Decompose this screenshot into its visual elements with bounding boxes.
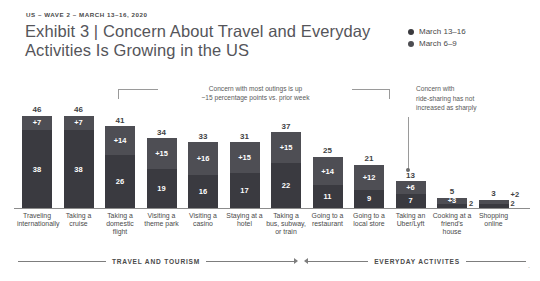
bar-segment-baseline: 11 [313, 185, 343, 208]
bar-chart-plot: 46+73846+73841+142634+151933+161631+1517… [14, 96, 530, 208]
bar-segment-baseline: 26 [105, 155, 135, 208]
category-label: Taking a domestic flight [100, 212, 140, 236]
bar-segment-increase: +7 [22, 116, 52, 130]
stacked-bar[interactable]: +1522 [271, 132, 301, 208]
category-label: Visiting a theme park [142, 212, 182, 228]
category-label: Visiting a casino [183, 212, 223, 228]
bar-segment-increase: +15 [230, 142, 260, 173]
bar-column: 41+1426 [105, 116, 135, 209]
bar-total-label: 21 [365, 154, 374, 163]
bar-total-label: 3 [491, 189, 495, 198]
bar-column: 34+1519 [147, 128, 177, 208]
category-label: Traveling internationally [17, 212, 57, 228]
arrow-right-icon [294, 258, 298, 264]
legend-item-march-6-9: March 6–9 [408, 39, 466, 48]
bar-segment-baseline: 17 [230, 173, 260, 208]
band-label: EVERYDAY ACTIVITES [368, 258, 466, 265]
stacked-bar[interactable]: +67 [396, 181, 426, 208]
eyebrow-label: US – WAVE 2 – MARCH 13–16, 2020 [26, 11, 147, 18]
title-line-2: Activities Is Growing in the US [25, 41, 385, 60]
category-label: Cooking at a friend's house [432, 212, 472, 236]
bar-outside-labels: +22 [509, 191, 520, 208]
bar-total-label: 31 [240, 132, 249, 141]
bar-column: 37+1522 [271, 122, 301, 208]
bar-total-label: 34 [157, 128, 166, 137]
stacked-bar[interactable]: +22+22 [479, 200, 509, 208]
stacked-bar[interactable]: +322 [437, 198, 467, 208]
bar-segment-baseline: 16 [188, 175, 218, 208]
annotation-ridesharing-line-1: Concern with [416, 84, 536, 94]
bar-segment-increase: +14 [105, 126, 135, 155]
bar-segment-increase: +15 [271, 132, 301, 163]
bar-column: 5+322 [437, 187, 467, 208]
bar-base-label-outside: 2 [469, 200, 473, 209]
bar-column: 25+1411 [313, 146, 343, 208]
bar-segment-baseline: 22 [271, 163, 301, 208]
chart-page: US – WAVE 2 – MARCH 13–16, 2020 Exhibit … [0, 0, 540, 281]
bar-total-label: 37 [282, 122, 291, 131]
bar-total-label: 46 [33, 105, 42, 114]
bar-total-label: 33 [199, 132, 208, 141]
bar-segment-increase: +14 [313, 157, 343, 186]
bar-segment-baseline: 19 [147, 169, 177, 208]
annotation-outings-line-1: Concern with most outings is up [148, 84, 363, 93]
category-label: Shopping online [474, 212, 514, 228]
bar-column: 33+1616 [188, 132, 218, 208]
bar-total-label: 25 [323, 146, 332, 155]
band-travel-and-tourism: TRAVEL AND TOURISM [18, 256, 298, 266]
bar-segment-increase: +12 [354, 165, 384, 190]
bar-total-label: 41 [116, 116, 125, 125]
legend-label: March 13–16 [419, 27, 466, 36]
bar-total-label: 5 [450, 187, 454, 196]
bar-column: 21+129 [354, 154, 384, 208]
legend: March 13–16 March 6–9 [408, 27, 466, 51]
category-label: Going to a restaurant [308, 212, 348, 228]
category-label: Staying at a hotel [225, 212, 265, 228]
category-label: Going to a local store [349, 212, 389, 228]
bar-total-label: 13 [406, 171, 415, 180]
bar-column: 46+738 [64, 105, 94, 208]
stacked-bar[interactable]: +738 [64, 116, 94, 208]
bar-segment-baseline: 38 [64, 130, 94, 208]
bar-column: 46+738 [22, 105, 52, 208]
category-label: Taking an Uber/Lyft [391, 212, 431, 228]
bar-column: 3+22+22 [479, 189, 509, 208]
bar-segment-increase: +16 [188, 142, 218, 175]
stacked-bar[interactable]: +129 [354, 165, 384, 208]
stacked-bar[interactable]: +1411 [313, 157, 343, 208]
bar-segment-increase: +7 [64, 116, 94, 130]
bar-column: 13+67 [396, 171, 426, 208]
bar-segment-increase: +6 [396, 181, 426, 193]
stacked-bar[interactable]: +1426 [105, 126, 135, 208]
category-label: Taking a bus, subway, or train [266, 212, 306, 236]
title-line-1: Exhibit 3 | Concern About Travel and Eve… [25, 22, 385, 41]
category-label: Taking a cruise [59, 212, 99, 228]
stacked-bar[interactable]: +1616 [188, 142, 218, 208]
bar-column: 31+1517 [230, 132, 260, 208]
stacked-bar[interactable]: +738 [22, 116, 52, 208]
legend-dot-icon [408, 29, 414, 35]
legend-label: March 6–9 [419, 39, 457, 48]
bar-segment-baseline: 38 [22, 130, 52, 208]
band-everyday-activities: EVERYDAY ACTIVITES [304, 256, 526, 266]
bar-segment-baseline: 7 [396, 194, 426, 208]
bar-segment-increase: +15 [147, 138, 177, 169]
bar-segment-baseline: 9 [354, 190, 384, 208]
page-title: Exhibit 3 | Concern About Travel and Eve… [25, 22, 385, 60]
bar-outside-labels: 2 [467, 200, 473, 209]
band-label: TRAVEL AND TOURISM [106, 258, 206, 265]
stacked-bar[interactable]: +1519 [147, 138, 177, 208]
bar-total-label: 46 [74, 105, 83, 114]
stacked-bar[interactable]: +1517 [230, 142, 260, 208]
legend-item-march-13-16: March 13–16 [408, 27, 466, 36]
legend-dot-icon [408, 41, 414, 47]
bar-base-label-outside: 2 [511, 200, 520, 209]
axis-baseline [14, 208, 530, 209]
corner-marker: . [528, 262, 530, 269]
